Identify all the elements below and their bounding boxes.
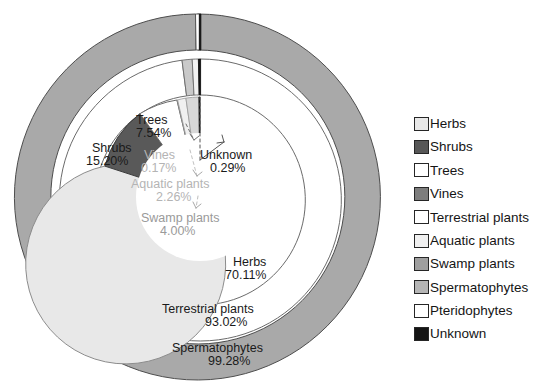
callout-shrubs-label: Shrubs (92, 141, 132, 155)
legend-swatch-terrestrial-plants (414, 210, 429, 224)
legend-item-trees[interactable]: Trees (414, 159, 554, 182)
slice-outer-unknown[interactable] (199, 14, 201, 50)
callout-spermatophytes-value: 99.28% (208, 354, 250, 368)
callout-swamp-plants-value: 4.00% (160, 224, 195, 238)
legend-item-pteridophytes[interactable]: Pteridophytes (414, 299, 554, 322)
legend-swatch-spermatophytes (414, 280, 429, 294)
legend-item-aquatic-plants[interactable]: Aquatic plants (414, 229, 554, 252)
legend-label-spermatophytes: Spermatophytes (430, 281, 528, 295)
callout-swamp-plants-label: Swamp plants (141, 211, 220, 225)
legend-label-unknown: Unknown (430, 327, 486, 341)
legend-label-swamp-plants: Swamp plants (430, 257, 515, 271)
callout-herbs-value: 70.11% (225, 268, 266, 282)
callout-trees-label: Trees (136, 113, 168, 127)
legend-label-terrestrial-plants: Terrestrial plants (430, 211, 529, 225)
legend-swatch-shrubs (414, 140, 429, 154)
callout-spermatophytes-label: Spermatophytes (172, 341, 263, 355)
callout-terrestrial-plants-value: 93.02% (205, 315, 247, 329)
callout-aquatic-plants-value: 2.26% (156, 190, 191, 204)
callout-herbs-label: Herbs (233, 255, 266, 269)
callout-terrestrial-plants-label: Terrestrial plants (162, 302, 254, 316)
legend-swatch-swamp-plants (414, 257, 429, 271)
legend-item-herbs[interactable]: Herbs (414, 112, 554, 135)
legend-item-unknown[interactable]: Unknown (414, 323, 554, 346)
legend-item-shrubs[interactable]: Shrubs (414, 135, 554, 158)
nested-donut-chart: Trees 7.54% Shrubs 15.20% Vines 0.17% Un… (0, 0, 400, 387)
slice-middle-unknown[interactable] (198, 59, 200, 95)
callout-shrubs-value: 15.20% (86, 154, 128, 168)
legend-item-spermatophytes[interactable]: Spermatophytes (414, 276, 554, 299)
legend-swatch-herbs (414, 117, 429, 131)
legend-swatch-vines (414, 187, 429, 201)
legend-label-trees: Trees (430, 164, 464, 178)
donut-svg: Trees 7.54% Shrubs 15.20% Vines 0.17% Un… (0, 0, 400, 387)
legend-swatch-aquatic-plants (414, 234, 429, 248)
legend-label-shrubs: Shrubs (430, 140, 473, 154)
legend-label-herbs: Herbs (430, 117, 466, 131)
legend-label-aquatic-plants: Aquatic plants (430, 234, 515, 248)
legend: Herbs Shrubs Trees Vines Terrestrial pla… (414, 112, 554, 346)
legend-label-pteridophytes: Pteridophytes (430, 304, 513, 318)
callout-unknown-value: 0.29% (210, 161, 245, 175)
slice-outer-pteridophytes[interactable] (196, 14, 200, 50)
legend-swatch-pteridophytes (414, 304, 429, 318)
legend-item-vines[interactable]: Vines (414, 182, 554, 205)
legend-item-swamp-plants[interactable]: Swamp plants (414, 252, 554, 275)
callout-vines-label: Vines (144, 148, 175, 162)
callout-unknown-label: Unknown (200, 148, 252, 162)
legend-item-terrestrial-plants[interactable]: Terrestrial plants (414, 206, 554, 229)
callout-aquatic-plants-label: Aquatic plants (131, 177, 210, 191)
legend-swatch-trees (414, 163, 429, 177)
callout-vines-value: 0.17% (141, 161, 176, 175)
callout-trees-value: 7.54% (136, 126, 171, 140)
legend-swatch-unknown (414, 327, 429, 341)
pie-chart-figure: Trees 7.54% Shrubs 15.20% Vines 0.17% Un… (0, 0, 557, 387)
legend-label-vines: Vines (430, 187, 464, 201)
